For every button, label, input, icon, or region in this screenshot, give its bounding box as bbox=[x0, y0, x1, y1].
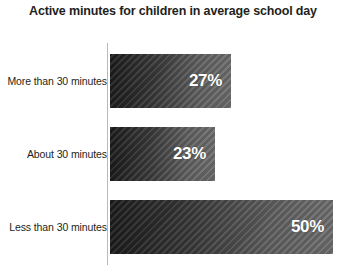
bar-category-label: More than 30 minutes bbox=[7, 75, 107, 87]
bar-row: More than 30 minutes 27% bbox=[0, 54, 346, 108]
bar-row: About 30 minutes 23% bbox=[0, 127, 346, 181]
bar-track: 27% bbox=[110, 54, 231, 108]
chart-title: Active minutes for children in average s… bbox=[0, 4, 346, 18]
bar-category-label: Less than 30 minutes bbox=[9, 221, 107, 233]
bar-value-label: 50% bbox=[291, 217, 333, 237]
plot-area: More than 30 minutes 27% About 30 minute… bbox=[0, 36, 346, 268]
bar-less-than-30-minutes: 50% bbox=[110, 200, 333, 254]
bar-row: Less than 30 minutes 50% bbox=[0, 200, 346, 254]
bar-track: 50% bbox=[110, 200, 333, 254]
bar-track: 23% bbox=[110, 127, 215, 181]
bar-more-than-30-minutes: 27% bbox=[110, 54, 231, 108]
bar-value-label: 23% bbox=[173, 144, 215, 164]
bar-category-label: About 30 minutes bbox=[27, 148, 107, 160]
bar-about-30-minutes: 23% bbox=[110, 127, 215, 181]
bar-value-label: 27% bbox=[189, 71, 231, 91]
bar-chart: Active minutes for children in average s… bbox=[0, 0, 346, 277]
